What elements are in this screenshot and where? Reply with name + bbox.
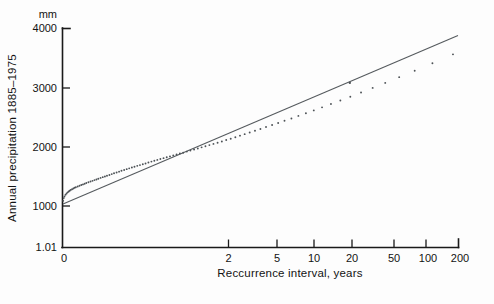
data-point [134,166,136,168]
data-point [102,176,104,178]
x-tick-label-200: 200 [451,252,469,264]
y-tick-label-2000: 2000 [33,141,57,153]
data-point [104,175,106,177]
data-point [230,138,232,140]
data-point [84,183,86,185]
y-tick-label-1000: 1000 [33,200,57,212]
x-tick-label-0: 0 [61,252,67,264]
data-point [179,153,181,155]
data-point [163,157,165,159]
data-point [204,145,206,147]
x-tick-label-10: 10 [308,252,320,264]
data-point [156,159,158,161]
data-point [254,130,256,132]
data-point [136,165,138,167]
data-point [82,183,84,185]
data-point [123,169,125,171]
data-point [239,135,241,137]
data-point [153,160,155,162]
data-point [113,172,115,174]
precipitation-recurrence-figure: 4000 3000 2000 1000 1.01 0 2 5 10 20 50 … [0,0,494,304]
data-point [139,164,141,166]
data-point [313,109,315,111]
data-point [90,181,92,183]
data-point [193,149,195,151]
data-point [213,143,215,145]
data-point [159,158,161,160]
data-point [182,152,184,154]
data-point [398,76,400,78]
fit-line-group [63,36,458,205]
data-point [116,171,118,173]
data-point [128,167,130,169]
y-tick-label-101: 1.01 [36,241,57,253]
data-point [77,186,79,188]
data-point [277,122,279,124]
data-point [172,154,174,156]
data-point [147,162,149,164]
data-point [297,115,299,117]
data-point [305,112,307,114]
data-point [330,103,332,105]
x-tick-label-2: 2 [225,252,231,264]
data-point [201,146,203,148]
data-point [169,155,171,157]
data-point [349,96,351,98]
data-point [142,163,144,165]
data-point [339,100,341,102]
data-point [150,161,152,163]
data-point [111,173,113,175]
data-point [121,170,123,172]
data-point [79,185,81,187]
x-tick-label-5: 5 [274,252,280,264]
data-point [64,196,66,198]
data-point [384,82,386,84]
data-point [431,62,433,64]
data-point [108,174,110,176]
data-point [372,87,374,89]
data-point [290,117,292,119]
data-point [145,162,147,164]
data-point [92,180,94,182]
data-point [80,184,82,186]
data-point [118,171,120,173]
x-axis-title: Reccurrence interval, years [217,267,362,279]
data-point [321,106,323,108]
y-axis-unit-label: mm [39,8,57,20]
data-point [95,179,97,181]
data-point [75,186,77,188]
x-tick-label-100: 100 [419,252,437,264]
y-tick-marks [63,88,71,206]
data-point [106,175,108,177]
x-tick-label-20: 20 [346,252,358,264]
data-point [176,154,178,156]
data-point [284,120,286,122]
data-point [234,136,236,138]
x-tick-marks [229,240,427,248]
data-point [221,140,223,142]
data-point [265,126,267,128]
data-point [271,124,273,126]
data-point [186,151,188,153]
data-point [63,197,65,199]
data-point [360,92,362,94]
data-point [208,144,210,146]
data-point [62,200,64,202]
y-tick-label-3000: 3000 [33,82,57,94]
data-point [85,182,87,184]
chart-canvas: 4000 3000 2000 1000 1.01 0 2 5 10 20 50 … [0,0,494,304]
data-point [94,179,96,181]
data-point [244,133,246,135]
data-point [97,178,99,180]
data-point [166,156,168,158]
data-point [217,142,219,144]
outlier-point [349,82,351,84]
data-point [259,128,261,130]
regression-fit-line [63,36,458,205]
data-point [197,148,199,150]
y-tick-label-4000: 4000 [33,22,57,34]
y-axis-title: Annual precipitation 1885–1975 [6,54,18,222]
data-point [126,168,128,170]
data-point [452,53,454,55]
data-point [249,132,251,134]
